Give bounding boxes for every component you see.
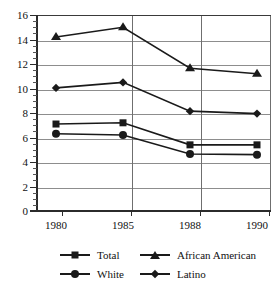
y-tick-label-6: 6 [0, 133, 28, 144]
y-minor-tick [33, 168, 37, 169]
y-tick-label-2: 2 [0, 182, 28, 193]
legend-label-african-american: African American [177, 249, 256, 261]
y-tick-label-8: 8 [0, 108, 28, 119]
y-tick-8 [30, 113, 37, 114]
y-tick-label-12: 12 [0, 59, 28, 70]
y-minor-tick [33, 174, 37, 175]
gridline-y-6 [37, 139, 270, 140]
legend-row-2: White Latino [0, 264, 280, 283]
cropped-title-remnant [0, 0, 280, 2]
y-minor-tick [33, 27, 37, 28]
x-tick-1990 [269, 210, 270, 216]
y-minor-tick [33, 107, 37, 108]
gridline-y-2 [37, 188, 270, 189]
legend-label-latino: Latino [177, 268, 206, 280]
y-tick-16 [30, 15, 37, 16]
y-minor-tick [33, 95, 37, 96]
y-tick-12 [30, 64, 37, 65]
plot-area [36, 15, 271, 211]
y-minor-tick [33, 82, 37, 83]
legend-row-1: Total African American [0, 245, 280, 264]
y-tick-label-14: 14 [0, 35, 28, 46]
legend-marker-square [60, 249, 90, 261]
y-minor-tick [33, 150, 37, 151]
y-minor-tick [33, 180, 37, 181]
y-minor-tick [33, 101, 37, 102]
y-minor-tick [33, 52, 37, 53]
y-tick-2 [30, 187, 37, 188]
y-minor-tick [33, 119, 37, 120]
legend-label-white: White [97, 268, 124, 280]
legend-entry-african-american: African American [140, 245, 256, 264]
gridline-y-8 [37, 114, 270, 115]
y-tick-label-10: 10 [0, 84, 28, 95]
x-tick-1980 [62, 210, 63, 216]
y-minor-tick [33, 46, 37, 47]
gridline-y-12 [37, 65, 270, 66]
y-minor-tick [33, 131, 37, 132]
y-minor-tick [33, 144, 37, 145]
gridline-x-1985 [132, 16, 133, 210]
y-minor-tick [33, 21, 37, 22]
legend-marker-triangle [140, 249, 170, 261]
y-minor-tick [33, 125, 37, 126]
gridline-x-1988 [201, 16, 202, 210]
gridline-y-10 [37, 90, 270, 91]
y-minor-tick [33, 156, 37, 157]
y-minor-tick [33, 193, 37, 194]
y-tick-0 [30, 211, 37, 212]
x-tick-label-1988: 1988 [160, 219, 220, 231]
legend-entry-total: Total [60, 245, 119, 264]
y-minor-tick [33, 205, 37, 206]
y-minor-tick [33, 76, 37, 77]
line-chart: 0246810121416 1980198519881990 Total Afr… [0, 0, 280, 286]
legend-label-total: Total [97, 249, 119, 261]
y-tick-label-4: 4 [0, 157, 28, 168]
y-tick-4 [30, 162, 37, 163]
legend-entry-latino: Latino [140, 264, 206, 283]
y-tick-6 [30, 138, 37, 139]
y-tick-14 [30, 40, 37, 41]
x-tick-label-1990: 1990 [227, 219, 280, 231]
gridline-x-1990 [270, 16, 271, 210]
gridline-y-4 [37, 163, 270, 164]
x-tick-label-1985: 1985 [93, 219, 153, 231]
legend-marker-circle [60, 268, 90, 280]
x-tick-1988 [200, 210, 201, 216]
x-tick-1985 [131, 210, 132, 216]
y-minor-tick [33, 58, 37, 59]
legend-marker-diamond [140, 268, 170, 280]
legend: Total African American White Latino [0, 245, 280, 283]
y-tick-10 [30, 89, 37, 90]
gridline-y-14 [37, 41, 270, 42]
y-minor-tick [33, 33, 37, 34]
legend-entry-white: White [60, 264, 124, 283]
y-minor-tick [33, 199, 37, 200]
y-tick-label-0: 0 [0, 206, 28, 217]
x-axis-line [30, 210, 271, 212]
y-tick-label-16: 16 [0, 10, 28, 21]
y-minor-tick [33, 70, 37, 71]
x-tick-label-1980: 1980 [26, 219, 86, 231]
